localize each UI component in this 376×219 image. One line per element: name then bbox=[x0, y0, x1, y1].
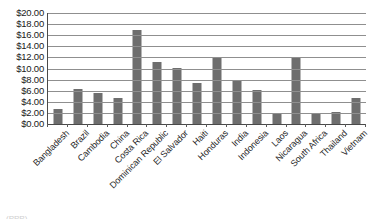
bar bbox=[133, 30, 142, 124]
y-tick-label: $10.00 bbox=[16, 64, 44, 74]
y-tick-label: $12.00 bbox=[16, 52, 44, 62]
y-axis: $20.00$18.00$16.00$14.00$12.00$10.00$8.0… bbox=[0, 6, 46, 132]
gridline bbox=[48, 91, 366, 92]
y-tick-label: $2.00 bbox=[21, 108, 44, 118]
gridline bbox=[48, 69, 366, 70]
x-axis-tick bbox=[305, 124, 306, 127]
x-tick-label: Bangladesh bbox=[31, 128, 71, 168]
bar bbox=[173, 68, 182, 124]
gridline bbox=[48, 113, 366, 114]
bar bbox=[193, 83, 202, 124]
y-tick-label: $6.00 bbox=[21, 86, 44, 96]
x-axis-tick bbox=[206, 124, 207, 127]
x-axis-tick bbox=[186, 124, 187, 127]
x-axis-tick bbox=[365, 124, 366, 127]
gridline bbox=[48, 35, 366, 36]
x-axis-tick bbox=[47, 124, 48, 127]
bar bbox=[252, 90, 261, 124]
x-axis-tick bbox=[286, 124, 287, 127]
x-axis-tick bbox=[226, 124, 227, 127]
x-axis-tick bbox=[246, 124, 247, 127]
plot-area bbox=[47, 13, 366, 125]
bar bbox=[272, 113, 281, 124]
gridline bbox=[48, 57, 366, 58]
gridline bbox=[48, 80, 366, 81]
x-axis-tick bbox=[166, 124, 167, 127]
y-tick-label: $0.00 bbox=[21, 119, 44, 129]
y-tick-label: $14.00 bbox=[16, 41, 44, 51]
y-tick-label: $8.00 bbox=[21, 75, 44, 85]
bar bbox=[312, 113, 321, 124]
x-axis-tick bbox=[325, 124, 326, 127]
bar bbox=[73, 89, 82, 124]
bar bbox=[153, 62, 162, 124]
bar bbox=[53, 109, 62, 124]
bar-chart: $20.00$18.00$16.00$14.00$12.00$10.00$8.0… bbox=[0, 0, 376, 219]
gridline bbox=[48, 24, 366, 25]
x-axis-tick bbox=[107, 124, 108, 127]
y-tick-label: $16.00 bbox=[16, 30, 44, 40]
x-axis-tick bbox=[146, 124, 147, 127]
y-tick-label: $18.00 bbox=[16, 19, 44, 29]
figure-caption: (PPP) bbox=[6, 214, 374, 219]
x-axis-tick bbox=[266, 124, 267, 127]
x-axis-tick bbox=[345, 124, 346, 127]
y-tick-label: $20.00 bbox=[16, 8, 44, 18]
gridline bbox=[48, 102, 366, 103]
x-axis-tick bbox=[87, 124, 88, 127]
x-axis-tick bbox=[127, 124, 128, 127]
gridline bbox=[48, 46, 366, 47]
bar bbox=[93, 93, 102, 124]
y-tick-label: $4.00 bbox=[21, 97, 44, 107]
x-axis-tick bbox=[67, 124, 68, 127]
x-axis-labels: BangladeshBrazilCambodiaChinaCosta RicaD… bbox=[47, 128, 376, 210]
